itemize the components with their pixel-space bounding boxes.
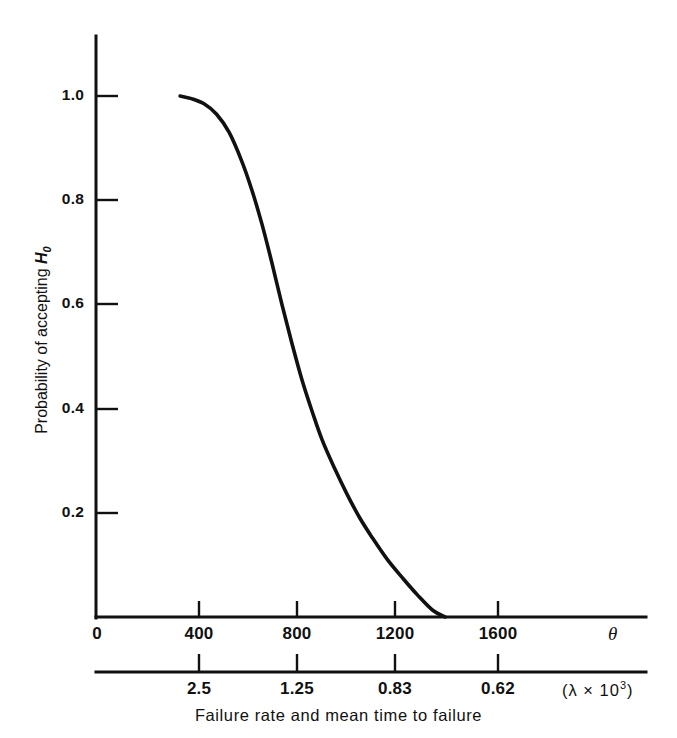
lambda-unit-prefix: (λ × 10	[562, 681, 620, 699]
lambda-unit-suffix: )	[627, 681, 634, 699]
lambda-unit-label: (λ × 103)	[562, 679, 634, 700]
y-axis-title-variable: H	[33, 252, 50, 264]
lambda-unit-exponent: 3	[620, 679, 627, 691]
oc-curve-path	[180, 96, 445, 617]
x-tick-label-800: 800	[267, 624, 327, 644]
y-axis-title-prefix: Probability of accepting	[33, 264, 50, 434]
x-tick-label-1200: 1200	[360, 624, 430, 644]
figure-caption: Failure rate and mean time to failure	[0, 706, 677, 725]
x-tick-label-1600: 1600	[463, 624, 533, 644]
lambda-tick-label-0.83: 0.83	[360, 679, 430, 699]
y-axis-title-subscript: 0	[41, 246, 53, 252]
lambda-tick-label-2.5: 2.5	[169, 679, 229, 699]
x-tick-label-0: 0	[86, 624, 108, 644]
lambda-tick-label-1.25: 1.25	[262, 679, 332, 699]
x-tick-label-400: 400	[169, 624, 229, 644]
y-tick-label-1.0: 1.0	[36, 86, 84, 104]
y-tick-label-0.2: 0.2	[36, 503, 84, 521]
y-axis-title: Probability of accepting H0	[33, 190, 53, 490]
theta-axis-symbol: θ	[608, 623, 617, 645]
lambda-tick-label-0.62: 0.62	[463, 679, 533, 699]
operating-characteristic-chart: 1.0 0.8 0.6 0.4 0.2 Probability of accep…	[0, 0, 677, 738]
